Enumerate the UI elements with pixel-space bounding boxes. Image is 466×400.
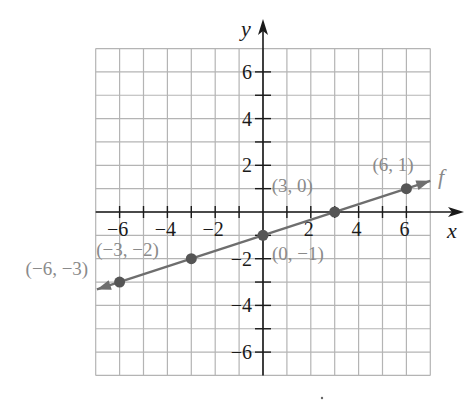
data-point: [114, 277, 125, 288]
point-label: (0, −1): [272, 243, 324, 265]
function-label: f: [438, 164, 447, 189]
x-axis-label: x: [446, 218, 457, 243]
y-tick-label: 6: [242, 61, 252, 83]
x-tick-label: 4: [352, 218, 362, 240]
y-tick-label: −6: [231, 341, 252, 363]
y-tick-label: 4: [242, 108, 252, 130]
data-point: [329, 207, 340, 218]
point-label: (3, 0): [272, 175, 313, 197]
y-axis-label: y: [239, 16, 251, 41]
point-label: (−3, −2): [96, 239, 159, 261]
data-point: [258, 230, 269, 241]
x-tick-label: −4: [155, 218, 176, 240]
y-tick-label: −4: [231, 294, 252, 316]
y-tick-label: 2: [242, 154, 252, 176]
point-label: (6, 1): [372, 154, 413, 176]
coordinate-plane: −6−4−2246−6−4−2246 (−6, −3)(−3, −2)(0, −…: [0, 0, 466, 400]
x-tick-label: 6: [399, 218, 409, 240]
y-tick-label: −2: [231, 248, 252, 270]
point-label: (−6, −3): [26, 258, 89, 280]
x-tick-label: −6: [107, 218, 128, 240]
x-tick-label: −2: [203, 218, 224, 240]
data-point: [401, 183, 412, 194]
data-point: [186, 253, 197, 264]
point-labels: (−6, −3)(−3, −2)(0, −1)(3, 0)(6, 1): [26, 154, 414, 280]
stray-mark: [321, 397, 323, 399]
